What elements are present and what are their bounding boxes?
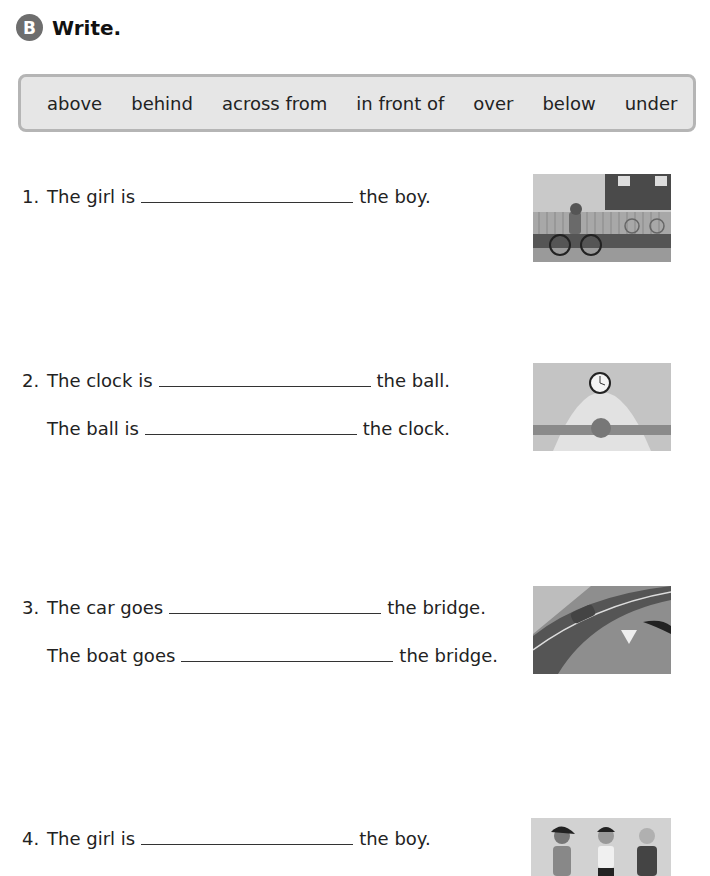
- word-bank-item: below: [542, 93, 595, 114]
- word-bank-item: in front of: [356, 93, 444, 114]
- word-bank-item: under: [625, 93, 678, 114]
- sentence-after: the bridge.: [399, 645, 498, 666]
- question-2-image: [533, 363, 671, 451]
- word-bank: above behind across from in front of ove…: [18, 74, 696, 132]
- question-number: 4.: [22, 828, 47, 849]
- section-header: B Write.: [16, 14, 121, 41]
- section-badge: B: [16, 14, 43, 41]
- sentence-before: The car goes: [47, 597, 163, 618]
- sentence-after: the boy.: [359, 828, 431, 849]
- sentence-before: The boat goes: [47, 645, 175, 666]
- sentence-after: the clock.: [363, 418, 450, 439]
- answer-blank[interactable]: [141, 201, 353, 203]
- question-number: 2.: [22, 370, 47, 391]
- sentence-before: The clock is: [47, 370, 153, 391]
- question-number: 1.: [22, 186, 47, 207]
- sentence-after: the bridge.: [387, 597, 486, 618]
- sentence-before: The girl is: [47, 828, 135, 849]
- answer-blank[interactable]: [159, 385, 371, 387]
- answer-blank[interactable]: [181, 660, 393, 662]
- word-bank-item: across from: [222, 93, 327, 114]
- word-bank-item: over: [473, 93, 513, 114]
- question-2-line-1: 2. The clock is the ball.: [22, 370, 450, 391]
- answer-blank[interactable]: [169, 612, 381, 614]
- question-4-image: [531, 818, 671, 876]
- word-bank-item: behind: [131, 93, 193, 114]
- question-number: 3.: [22, 597, 47, 618]
- sentence-after: the boy.: [359, 186, 431, 207]
- word-bank-item: above: [47, 93, 102, 114]
- question-3-line-1: 3. The car goes the bridge.: [22, 597, 486, 618]
- answer-blank[interactable]: [141, 843, 353, 845]
- question-3-line-2: The boat goes the bridge.: [22, 645, 498, 666]
- question-4-line-1: 4. The girl is the boy.: [22, 828, 431, 849]
- sentence-after: the ball.: [377, 370, 450, 391]
- sentence-before: The ball is: [47, 418, 139, 439]
- section-title: Write.: [52, 16, 121, 40]
- question-2-line-2: The ball is the clock.: [22, 418, 450, 439]
- question-1-line-1: 1. The girl is the boy.: [22, 186, 431, 207]
- question-1-image: [533, 174, 671, 262]
- question-3-image: [533, 586, 671, 674]
- sentence-before: The girl is: [47, 186, 135, 207]
- answer-blank[interactable]: [145, 433, 357, 435]
